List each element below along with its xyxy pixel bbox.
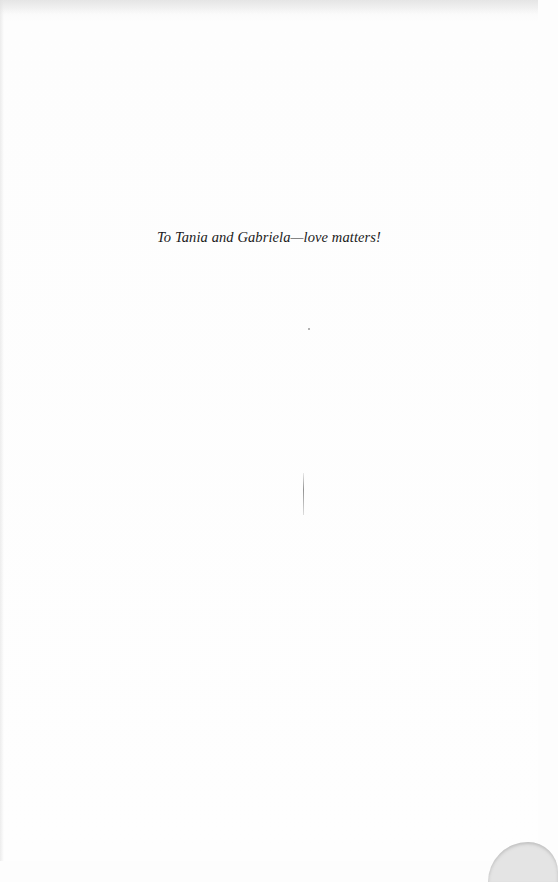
scan-scratch-mark [303,473,304,515]
scan-left-edge [0,0,4,861]
page-corner-curl [488,842,558,882]
dedication-text: To Tania and Gabriela—love matters! [0,229,538,246]
scan-speck [308,328,310,330]
scan-top-shadow [0,0,538,14]
